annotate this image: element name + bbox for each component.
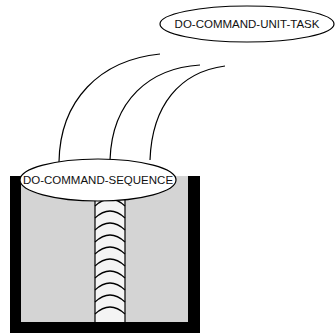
connection-curves [59,54,225,162]
node-label: DO-COMMAND-UNIT-TASK [175,18,320,30]
connection-curve-2 [110,65,200,160]
node-do-command-unit-task[interactable]: DO-COMMAND-UNIT-TASK [160,6,334,42]
node-do-command-sequence[interactable]: DO-COMMAND-SEQUENCE [20,159,176,201]
chain-column [95,195,125,322]
node-label: DO-COMMAND-SEQUENCE [23,174,173,186]
diagram-canvas: DO-COMMAND-SEQUENCE DO-COMMAND-UNIT-TASK [0,0,335,335]
connection-curve-1 [59,54,160,162]
connection-curve-3 [150,66,225,160]
